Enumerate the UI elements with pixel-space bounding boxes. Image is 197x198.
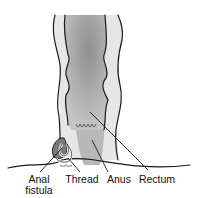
label-anus: Anus [104, 174, 134, 185]
label-anal-fistula: Anal fistula [22, 174, 56, 196]
anal-fistula-diagram [0, 0, 197, 198]
rectum-lumen [65, 15, 108, 130]
label-rectum-text: Rectum [136, 174, 178, 185]
label-anal-fistula-line2: fistula [22, 185, 56, 196]
label-thread: Thread [62, 174, 102, 185]
label-thread-text: Thread [62, 174, 102, 185]
label-rectum: Rectum [136, 174, 178, 185]
label-anus-text: Anus [104, 174, 134, 185]
thread-ends [60, 165, 72, 167]
leader-thread [68, 158, 80, 172]
